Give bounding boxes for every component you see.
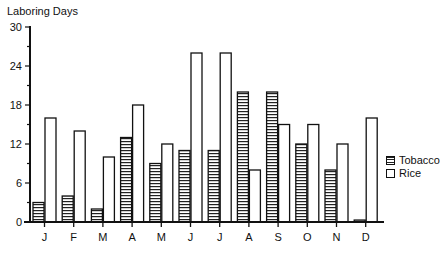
y-tick-label: 6 — [16, 177, 22, 189]
x-tick-label: J — [217, 231, 223, 243]
legend-item-rice: Rice — [386, 167, 440, 180]
bar-rice — [279, 125, 290, 223]
bar-rice — [162, 144, 173, 222]
bar-rice — [220, 53, 231, 222]
y-tick-label: 24 — [10, 60, 22, 72]
legend-label: Tobacco — [399, 154, 440, 167]
bar-tobacco — [33, 203, 44, 223]
rice-swatch-icon — [386, 169, 395, 178]
bar-rice — [337, 144, 348, 222]
bar-chart: JFMAMJJASOND0612182430 — [0, 0, 447, 253]
bar-rice — [308, 125, 319, 223]
bar-tobacco — [325, 170, 336, 222]
legend: Tobacco Rice — [386, 154, 440, 180]
legend-label: Rice — [399, 167, 421, 180]
legend-item-tobacco: Tobacco — [386, 154, 440, 167]
x-tick-label: F — [70, 231, 77, 243]
x-tick-label: S — [274, 231, 281, 243]
y-tick-label: 12 — [10, 138, 22, 150]
y-tick-label: 0 — [16, 216, 22, 228]
bar-rice — [133, 105, 144, 222]
bar-tobacco — [267, 92, 278, 222]
x-tick-label: M — [157, 231, 166, 243]
x-tick-label: M — [98, 231, 107, 243]
bar-tobacco — [296, 144, 307, 222]
bars — [33, 53, 377, 222]
bar-rice — [366, 118, 377, 222]
bar-rice — [45, 118, 56, 222]
bar-tobacco — [150, 164, 161, 223]
x-tick-label: J — [188, 231, 194, 243]
y-tick-label: 30 — [10, 21, 22, 33]
x-tick-label: O — [303, 231, 312, 243]
x-tick-label: A — [245, 231, 253, 243]
y-tick-label: 18 — [10, 99, 22, 111]
bar-tobacco — [62, 196, 73, 222]
x-tick-label: A — [128, 231, 136, 243]
bar-tobacco — [208, 151, 219, 223]
bar-tobacco — [179, 151, 190, 223]
bar-rice — [74, 131, 85, 222]
bar-rice — [191, 53, 202, 222]
bar-tobacco — [237, 92, 248, 222]
bar-tobacco — [91, 209, 102, 222]
x-tick-label: J — [42, 231, 48, 243]
bar-rice — [249, 170, 260, 222]
x-tick-label: D — [362, 231, 370, 243]
bar-rice — [103, 157, 114, 222]
x-tick-label: N — [333, 231, 341, 243]
tobacco-swatch-icon — [386, 156, 395, 165]
bar-tobacco — [121, 138, 132, 223]
